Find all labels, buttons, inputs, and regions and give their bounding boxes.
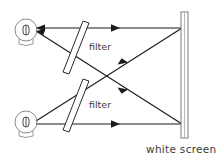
ray-bottom-straight-arrowhead: [111, 120, 120, 128]
diagram-svg: filter filter white screen: [0, 0, 216, 162]
filter-top-label: filter: [89, 41, 111, 52]
white-screen-label: white screen: [146, 143, 216, 155]
ray-top-straight-arrowhead: [111, 24, 120, 32]
light-source-bottom: [15, 111, 37, 138]
white-screen: [181, 12, 188, 138]
filter-top-slab[interactable]: [63, 21, 89, 74]
ray-group: [36, 24, 182, 128]
filter-top[interactable]: [63, 21, 89, 74]
optics-diagram-canvas: filter filter white screen: [0, 0, 216, 162]
light-source-top: [15, 19, 37, 46]
filter-bottom-label: filter: [89, 99, 111, 110]
